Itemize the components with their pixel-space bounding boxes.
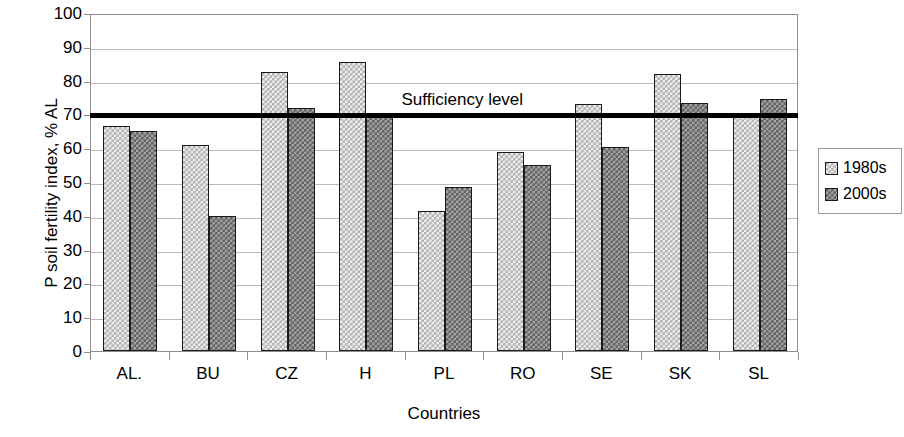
legend-item: 2000s xyxy=(825,181,901,207)
legend-label: 2000s xyxy=(843,186,887,202)
y-axis-tick-label: 90 xyxy=(30,39,82,56)
x-axis-tick-mark xyxy=(719,352,720,360)
bar-chart-figure: P soil fertility index, % AL 01020304050… xyxy=(0,0,904,437)
x-axis-tick-label: PL xyxy=(405,364,484,384)
sufficiency-level-label: Sufficiency level xyxy=(402,90,524,110)
gridline xyxy=(91,83,797,84)
sufficiency-level-line xyxy=(90,113,798,118)
y-axis-tick-label: 30 xyxy=(30,242,82,259)
y-axis-tick-label: 60 xyxy=(30,140,82,157)
legend: 1980s 2000s xyxy=(818,148,902,214)
x-axis-tick-label: RO xyxy=(483,364,562,384)
gridline xyxy=(91,49,797,50)
bar-ro-1980s xyxy=(497,152,524,351)
y-axis-tick-label: 70 xyxy=(30,106,82,123)
bar-pl-2000s xyxy=(445,187,472,351)
y-axis-tick-label: 40 xyxy=(30,208,82,225)
bar-sk-2000s xyxy=(681,103,708,351)
legend-label: 1980s xyxy=(843,160,887,176)
legend-item: 1980s xyxy=(825,155,901,181)
bar-se-2000s xyxy=(602,147,629,351)
bar-h-1980s xyxy=(339,62,366,351)
x-axis-tick-mark xyxy=(169,352,170,360)
bar-sl-1980s xyxy=(733,116,760,351)
bar-se-1980s xyxy=(575,104,602,351)
bar-al-1980s xyxy=(103,126,130,351)
y-axis-tick-label: 10 xyxy=(30,309,82,326)
bar-ro-2000s xyxy=(524,165,551,351)
bar-bu-2000s xyxy=(209,216,236,351)
bar-pl-1980s xyxy=(418,211,445,351)
x-axis-tick-mark xyxy=(90,352,91,360)
x-axis-tick-mark xyxy=(641,352,642,360)
x-axis-tick-label: CZ xyxy=(247,364,326,384)
x-axis-tick-label: SK xyxy=(641,364,720,384)
x-axis-tick-label: BU xyxy=(169,364,248,384)
x-axis-tick-mark xyxy=(483,352,484,360)
x-axis-tick-label: SL xyxy=(719,364,798,384)
y-axis-tick-label: 80 xyxy=(30,73,82,90)
x-axis-tick-mark xyxy=(247,352,248,360)
x-axis-tick-mark xyxy=(798,352,799,360)
x-axis-tick-label: SE xyxy=(562,364,641,384)
x-axis-tick-mark xyxy=(562,352,563,360)
bar-h-2000s xyxy=(366,114,393,351)
x-axis-tick-mark xyxy=(326,352,327,360)
legend-swatch-2000s-icon xyxy=(825,188,838,201)
bar-al-2000s xyxy=(130,131,157,351)
plot-area xyxy=(90,14,798,352)
x-axis-tick-mark xyxy=(405,352,406,360)
bar-sl-2000s xyxy=(760,99,787,351)
y-axis-tick-label: 20 xyxy=(30,275,82,292)
x-axis-tick-label: H xyxy=(326,364,405,384)
x-axis-tick-label: AL. xyxy=(90,364,169,384)
legend-swatch-1980s-icon xyxy=(825,162,838,175)
y-axis-tick-labels: 0102030405060708090100 xyxy=(30,0,82,437)
y-axis-tick-label: 0 xyxy=(30,343,82,360)
bar-bu-1980s xyxy=(182,145,209,351)
y-axis-tick-label: 100 xyxy=(30,5,82,22)
bar-cz-2000s xyxy=(288,108,315,351)
y-axis-tick-label: 50 xyxy=(30,174,82,191)
x-axis-title: Countries xyxy=(90,404,798,424)
